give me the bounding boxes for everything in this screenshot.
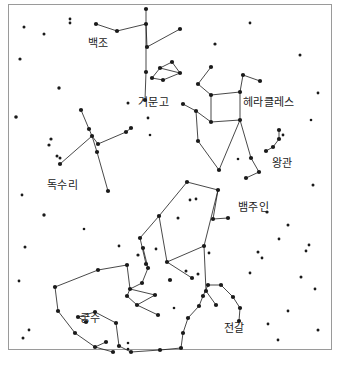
constellation-line [204, 190, 218, 246]
constellation-star [87, 127, 91, 131]
field-star [173, 307, 176, 310]
constellation-star [106, 189, 110, 193]
constellation-star [271, 145, 275, 149]
field-star [57, 86, 60, 89]
constellation-star [79, 108, 83, 112]
field-star [23, 26, 26, 29]
constellation-star [209, 65, 213, 69]
constellation-star [125, 294, 129, 298]
field-star [14, 115, 18, 119]
field-star [147, 117, 150, 120]
constellation-star [128, 287, 132, 291]
constellation-hercules[interactable] [181, 65, 262, 180]
constellation-line [142, 268, 148, 283]
constellation-cygnus[interactable] [94, 7, 182, 102]
constellation-star [238, 306, 242, 310]
constellation-star [209, 120, 213, 124]
field-star [300, 276, 303, 279]
field-star [278, 238, 281, 241]
constellation-scorpius[interactable] [76, 283, 242, 354]
constellation-star [124, 130, 128, 134]
constellation-star [264, 149, 268, 153]
constellation-star [178, 71, 182, 75]
constellation-star [138, 236, 142, 240]
constellation-line [204, 246, 206, 291]
constellation-star [214, 303, 218, 307]
constellation-star [144, 7, 148, 11]
field-star [312, 184, 315, 187]
constellation-line [81, 110, 89, 129]
constellation-line [147, 29, 180, 47]
field-star [59, 157, 62, 160]
constellation-star [181, 331, 185, 335]
field-star [21, 194, 24, 197]
constellation-star [206, 283, 210, 287]
constellation-line [196, 111, 198, 141]
constellation-line [183, 104, 196, 111]
constellation-line [116, 323, 119, 346]
constellation-line [140, 238, 146, 264]
constellation-star [95, 150, 99, 154]
constellation-star [129, 126, 133, 130]
field-star [197, 273, 200, 276]
field-star [257, 251, 260, 254]
constellation-line [196, 111, 211, 122]
constellation-line [251, 158, 259, 172]
constellation-line [137, 305, 158, 315]
field-star [69, 18, 72, 21]
constellation-line [240, 120, 251, 158]
constellation-star [145, 45, 149, 49]
constellation-star [181, 102, 185, 106]
constellation-star [277, 137, 281, 141]
field-star [317, 329, 320, 332]
constellation-label-cygnus: 백조 [88, 38, 109, 49]
field-star [237, 158, 240, 161]
constellation-sagittarius[interactable] [53, 246, 160, 354]
constellation-star [258, 79, 262, 83]
field-star [47, 143, 50, 146]
constellation-line [167, 246, 204, 262]
constellation-star [90, 134, 94, 138]
field-star [310, 119, 313, 122]
constellation-star [190, 276, 194, 280]
field-star [49, 137, 52, 140]
constellation-line [117, 24, 146, 31]
constellation-star [158, 66, 162, 70]
field-star [308, 244, 311, 247]
constellation-line [213, 218, 228, 219]
constellation-star [146, 266, 150, 270]
constellation-corona-borealis[interactable] [264, 128, 281, 153]
constellation-star [115, 29, 119, 33]
constellation-label-sagittarius: 궁수 [80, 313, 101, 324]
constellation-star [150, 76, 154, 80]
field-star [42, 213, 45, 216]
constellation-star [231, 295, 235, 299]
constellation-star [129, 350, 133, 354]
constellation-star [53, 285, 57, 289]
field-star [299, 54, 302, 57]
field-star [249, 272, 252, 275]
constellation-line [246, 172, 259, 178]
field-star [195, 198, 198, 201]
constellation-star [111, 350, 115, 354]
constellation-star [117, 344, 121, 348]
constellation-line [211, 92, 240, 95]
constellation-star [217, 168, 221, 172]
field-star [43, 33, 46, 36]
constellation-ophiuchus[interactable] [138, 180, 230, 307]
field-star [267, 323, 270, 326]
constellation-lyra[interactable] [150, 60, 182, 82]
constellation-label-scorpius: 전갈 [224, 323, 245, 334]
field-star [22, 337, 25, 340]
field-star [177, 217, 180, 220]
constellation-line [130, 289, 155, 295]
constellation-star [216, 188, 220, 192]
field-star [213, 42, 216, 45]
constellation-star [153, 293, 157, 297]
field-star [69, 22, 72, 25]
constellation-line [55, 270, 98, 287]
constellation-star [56, 309, 60, 313]
field-star [185, 270, 188, 273]
constellation-star [196, 82, 200, 86]
star-chart: 백조거문고헤라클레스왕관독수리뱀주인궁수전갈 [0, 0, 340, 365]
